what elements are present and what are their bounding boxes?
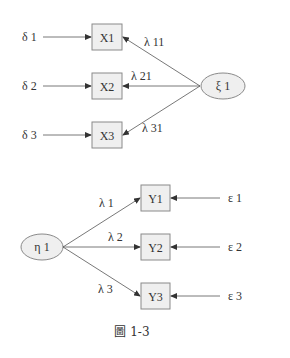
loading-label-lambda21: λ 21 — [131, 69, 152, 83]
lower-error-terms: ε 1 ε 2 ε 3 — [171, 191, 242, 303]
error-label-epsilon3: ε 3 — [228, 289, 242, 303]
loading-label-lambda2: λ 2 — [108, 230, 123, 244]
lower-loadings: λ 1 λ 2 λ 3 — [63, 196, 140, 296]
indicator-label-x3: X3 — [100, 129, 115, 143]
lower-indicators: Y1 Y2 Y3 — [141, 185, 170, 309]
indicator-label-y1: Y1 — [148, 192, 163, 206]
sem-diagram: δ 1 δ 2 δ 3 X1 X2 X3 λ 11 λ 21 λ 31 ξ 1 … — [0, 0, 290, 358]
error-label-delta1: δ 1 — [22, 30, 37, 44]
loading-label-lambda31: λ 31 — [142, 121, 163, 135]
indicator-label-y2: Y2 — [148, 241, 163, 255]
loading-label-lambda1: λ 1 — [99, 196, 114, 210]
loading-label-lambda11: λ 11 — [144, 35, 164, 49]
loading-label-lambda3: λ 3 — [98, 282, 113, 296]
figure-caption: 圖 1-3 — [114, 325, 149, 339]
upper-error-terms: δ 1 δ 2 δ 3 — [22, 30, 91, 142]
upper-indicators: X1 X2 X3 — [92, 24, 122, 148]
error-label-epsilon1: ε 1 — [228, 191, 242, 205]
indicator-label-x2: X2 — [100, 80, 115, 94]
error-label-delta2: δ 2 — [22, 79, 37, 93]
indicator-label-x1: X1 — [100, 31, 115, 45]
error-label-epsilon2: ε 2 — [228, 240, 242, 254]
error-label-delta3: δ 3 — [22, 128, 37, 142]
upper-loadings: λ 11 λ 21 λ 31 — [123, 35, 200, 135]
indicator-label-y3: Y3 — [148, 290, 163, 304]
latent-label-eta1: η 1 — [34, 240, 49, 254]
latent-label-xi1: ξ 1 — [216, 79, 230, 93]
